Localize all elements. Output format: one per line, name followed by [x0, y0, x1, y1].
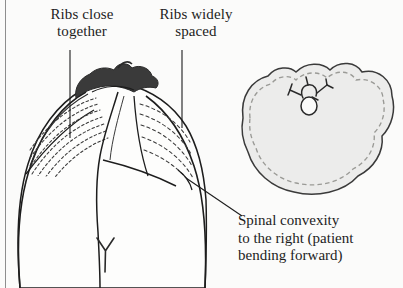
caption-spinal-convexity: Spinal convexity to the right (patient b… — [238, 212, 403, 265]
label-ribs-widely-spaced: Ribs widely spaced — [140, 6, 252, 40]
figure-canvas: Ribs close together Ribs widely spaced S… — [0, 0, 403, 288]
label-ribs-close-together: Ribs close together — [22, 6, 142, 40]
torso-figure — [18, 62, 206, 288]
cross-section-inset — [242, 63, 393, 194]
inset-outer-contour — [242, 63, 393, 194]
